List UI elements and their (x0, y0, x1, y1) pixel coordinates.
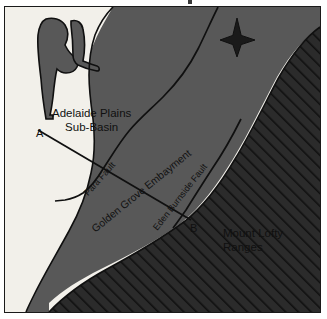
geological-locality-map: Adelaide Plains Sub-Basin Mount Lofty Ra… (0, 0, 327, 319)
map-canvas (5, 7, 320, 312)
map-frame: Adelaide Plains Sub-Basin Mount Lofty Ra… (4, 6, 321, 313)
top-edge-artifact (188, 0, 192, 4)
